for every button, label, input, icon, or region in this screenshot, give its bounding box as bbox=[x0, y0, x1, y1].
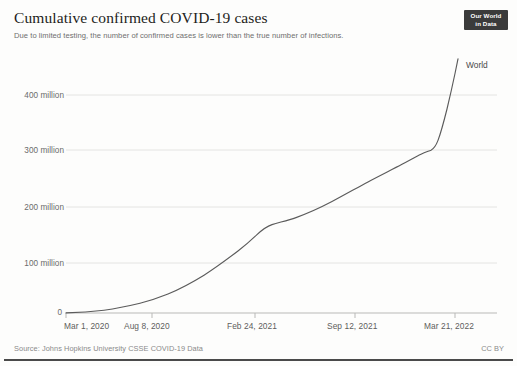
footer-source-text: Source: Johns Hopkins University CSSE CO… bbox=[14, 344, 203, 353]
x-tick-label-2: Feb 24, 2021 bbox=[227, 321, 277, 331]
y-tick-label-100m: 100 million bbox=[18, 259, 64, 268]
chart-card: Cumulative confirmed COVID-19 cases Due … bbox=[0, 0, 517, 366]
gridlines bbox=[66, 95, 497, 263]
x-tick-label-1: Aug 8, 2020 bbox=[124, 321, 170, 331]
x-tick-label-3: Sep 12, 2021 bbox=[327, 321, 377, 331]
chart-footer: Source: Johns Hopkins University CSSE CO… bbox=[0, 340, 517, 366]
footer-license-text[interactable]: CC BY bbox=[481, 344, 504, 353]
footer-divider bbox=[4, 359, 513, 361]
plot-area: 400 million 300 million 200 million 100 … bbox=[0, 0, 517, 340]
series-line-world[interactable] bbox=[66, 59, 458, 313]
y-tick-label-200m: 200 million bbox=[18, 203, 64, 212]
chart-canvas bbox=[0, 0, 517, 340]
y-tick-label-400m: 400 million bbox=[18, 91, 64, 100]
x-tick-label-0: Mar 1, 2020 bbox=[64, 321, 109, 331]
series-label-world: World bbox=[466, 60, 488, 70]
y-tick-label-0: 0 bbox=[18, 308, 62, 317]
x-tick-label-4: Mar 21, 2022 bbox=[424, 321, 474, 331]
x-axis-ticks bbox=[66, 313, 455, 318]
y-tick-label-300m: 300 million bbox=[18, 146, 64, 155]
